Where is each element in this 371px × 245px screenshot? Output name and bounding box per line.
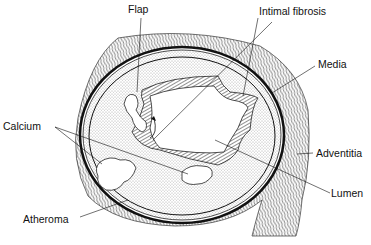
label-calcium: Calcium <box>3 121 41 132</box>
label-lumen: Lumen <box>331 188 363 199</box>
label-adventitia: Adventitia <box>316 148 362 159</box>
label-flap: Flap <box>128 4 148 15</box>
artery-cross-section-diagram <box>0 0 371 245</box>
label-atheroma: Atheroma <box>23 214 69 225</box>
label-media: Media <box>318 59 347 70</box>
label-intimal-fibrosis: Intimal fibrosis <box>259 6 326 17</box>
